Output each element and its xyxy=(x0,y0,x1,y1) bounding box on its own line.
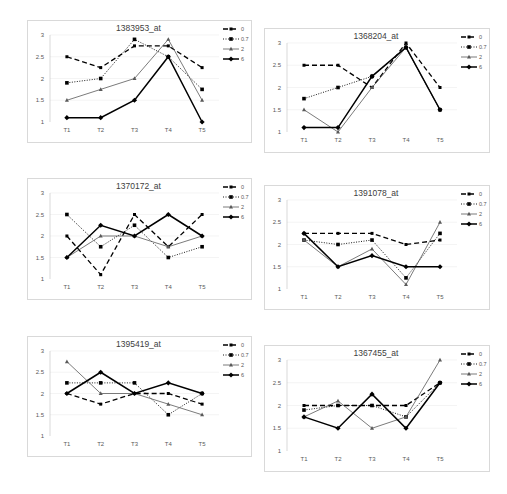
data-point xyxy=(370,247,374,251)
data-point xyxy=(201,403,204,406)
y-tick-label: 2 xyxy=(41,76,45,82)
x-tick-label: T4 xyxy=(165,441,173,447)
legend-item: 0 xyxy=(223,342,244,348)
legend-label: 2 xyxy=(479,54,482,60)
chart-svg: 1368204_at11.522.53T1T2T3T4T500.726 xyxy=(265,29,489,152)
x-tick-label: T3 xyxy=(368,456,376,462)
y-tick-label: 1.5 xyxy=(36,97,45,103)
chart-1391078-at: 1391078_at11.522.53T1T2T3T4T500.726 xyxy=(264,185,490,310)
x-tick-label: T5 xyxy=(436,137,444,143)
legend-label: 0 xyxy=(479,351,482,357)
data-point xyxy=(133,38,137,42)
legend-label: 6 xyxy=(241,372,244,378)
data-point xyxy=(438,358,442,362)
data-point xyxy=(99,273,102,276)
data-point xyxy=(302,408,306,412)
data-point xyxy=(166,380,171,385)
y-tick-label: 3 xyxy=(278,40,282,46)
y-tick-label: 1.5 xyxy=(273,107,282,113)
legend-label: 2 xyxy=(479,371,482,377)
legend-marker xyxy=(468,353,471,356)
x-tick-label: T2 xyxy=(97,441,105,447)
data-point xyxy=(303,64,306,67)
data-point xyxy=(200,245,204,249)
x-tick-label: T2 xyxy=(334,294,342,300)
x-tick-label: T2 xyxy=(97,284,105,290)
legend-label: 0.7 xyxy=(241,36,249,42)
legend-label: 0 xyxy=(241,342,244,348)
data-point xyxy=(438,220,442,224)
data-point xyxy=(370,238,374,242)
legend-marker xyxy=(468,193,471,196)
data-point xyxy=(167,256,171,260)
series-0 xyxy=(65,213,203,276)
data-point xyxy=(98,115,103,120)
legend-item: 6 xyxy=(461,221,482,227)
series-2 xyxy=(302,45,442,133)
data-point xyxy=(99,66,102,69)
data-point xyxy=(302,97,306,101)
chart-title: 1383953_at xyxy=(116,23,162,33)
y-tick-label: 1 xyxy=(41,433,45,439)
legend-marker xyxy=(229,353,233,357)
legend-marker xyxy=(228,214,233,219)
chart-svg: 1395419_at11.522.53T1T2T3T4T500.726 xyxy=(28,337,251,456)
y-tick-label: 1 xyxy=(278,448,282,454)
y-tick-label: 1.5 xyxy=(36,412,45,418)
data-point xyxy=(337,64,340,67)
chart-title: 1370172_at xyxy=(116,181,162,191)
y-tick-label: 2 xyxy=(41,391,45,397)
y-tick-label: 3 xyxy=(41,190,45,196)
series-6 xyxy=(64,54,204,124)
data-point xyxy=(166,37,170,41)
legend-marker xyxy=(230,186,233,189)
data-point xyxy=(65,55,68,58)
x-tick-label: T5 xyxy=(436,456,444,462)
data-point xyxy=(65,359,69,363)
legend-item: 6 xyxy=(223,56,244,62)
y-tick-label: 2.5 xyxy=(36,212,45,218)
data-point xyxy=(64,115,69,120)
data-point xyxy=(336,243,340,247)
x-tick-label: T5 xyxy=(436,294,444,300)
x-tick-label: T5 xyxy=(199,284,207,290)
data-point xyxy=(370,404,374,408)
legend-label: 2 xyxy=(241,362,244,368)
x-tick-label: T1 xyxy=(63,127,71,133)
data-point xyxy=(336,399,340,403)
legend-item: 2 xyxy=(223,204,244,210)
data-point xyxy=(438,232,442,236)
data-point xyxy=(337,232,340,235)
x-tick-label: T3 xyxy=(131,441,139,447)
data-point xyxy=(439,239,442,242)
legend-label: 2 xyxy=(479,211,482,217)
legend-marker xyxy=(467,202,471,206)
legend-label: 0 xyxy=(241,26,244,32)
chart-1370172-at: 1370172_at11.522.53T1T2T3T4T500.726 xyxy=(27,178,252,300)
y-tick-label: 1 xyxy=(278,286,282,292)
legend-marker xyxy=(468,36,471,39)
legend-item: 0.7 xyxy=(461,201,487,207)
x-tick-label: T4 xyxy=(165,284,173,290)
series-line xyxy=(304,383,440,417)
data-point xyxy=(99,245,103,249)
data-point xyxy=(301,414,306,419)
y-tick-label: 3 xyxy=(41,348,45,354)
x-tick-label: T4 xyxy=(402,294,410,300)
y-tick-label: 1 xyxy=(41,119,45,125)
data-point xyxy=(200,391,205,396)
legend-label: 0.7 xyxy=(479,361,487,367)
y-tick-label: 3 xyxy=(278,357,282,363)
y-tick-label: 1.5 xyxy=(273,425,282,431)
x-tick-label: T1 xyxy=(300,294,308,300)
data-point xyxy=(404,276,408,280)
x-tick-label: T3 xyxy=(131,127,139,133)
legend-item: 0 xyxy=(223,26,244,32)
legend-item: 0.7 xyxy=(461,361,487,367)
y-tick-label: 2 xyxy=(278,403,282,409)
data-point xyxy=(405,42,408,45)
legend-item: 2 xyxy=(223,46,244,52)
legend-marker xyxy=(228,372,233,377)
legend-item: 6 xyxy=(223,214,244,220)
data-point xyxy=(133,44,136,47)
